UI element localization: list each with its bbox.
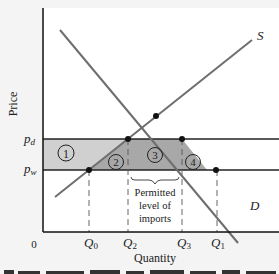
svg-text:3: 3: [152, 149, 158, 161]
origin-label: 0: [31, 238, 37, 250]
svg-text:4: 4: [190, 156, 196, 168]
permitted-label-line1: Permitted: [135, 187, 177, 198]
demand-at-pw-point: [213, 167, 219, 173]
cropped-caption: [4, 270, 276, 274]
svg-text:1: 1: [63, 147, 69, 161]
y-axis-label: Price: [6, 92, 20, 117]
q1-label: Q1: [211, 235, 225, 251]
x-axis-label: Quantity: [134, 251, 176, 265]
permitted-label-line3: imports: [139, 213, 171, 224]
svg-text:2: 2: [113, 156, 119, 168]
pd-label: pd: [23, 131, 36, 147]
plot-area: [43, 8, 279, 232]
supply-at-pw-point: [86, 167, 92, 173]
supply-at-pd-point: [125, 136, 131, 142]
supply-label: S: [257, 28, 264, 43]
demand-at-pd-point: [179, 136, 185, 142]
demand-label: D: [249, 198, 260, 213]
q2-label: Q2: [123, 235, 137, 251]
equilibrium-point: [153, 113, 159, 119]
q3-label: Q3: [177, 235, 191, 251]
import-quota-diagram: 1 2 3 4 S D pd pw Price 0 Q0 Q2 Q3 Q1 Qu…: [0, 0, 279, 274]
permitted-label-line2: level of: [139, 200, 171, 211]
q0-label: Q0: [84, 235, 98, 251]
pw-label: pw: [23, 161, 37, 177]
